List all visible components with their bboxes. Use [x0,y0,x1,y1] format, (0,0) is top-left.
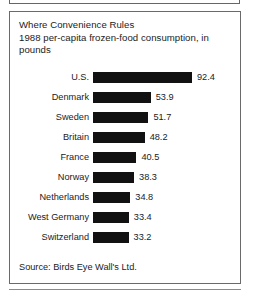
bar-row: Norway38.3 [19,168,232,188]
bar-value-label: 33.2 [134,232,152,243]
bar-category-label: West Germany [19,212,93,223]
bar-value-label: 40.5 [141,152,159,163]
chart-title: Where Convenience Rules 1988 per-capita … [19,19,232,57]
bar-track: 53.9 [93,92,232,104]
bar-track: 51.7 [93,112,232,124]
bar-row: Britain48.2 [19,128,232,148]
bar-track: 34.8 [93,192,232,204]
bar-row: France40.5 [19,148,232,168]
bar-track: 33.2 [93,232,232,244]
bar-value-label: 53.9 [156,92,174,103]
bar-fill [93,72,192,83]
bar-row: Denmark53.9 [19,88,232,108]
bar-value-label: 51.7 [153,112,171,123]
bar-value-label: 48.2 [150,132,168,143]
bar-track: 40.5 [93,152,232,164]
bar-category-label: U.S. [19,72,93,83]
bar-track: 33.4 [93,212,232,224]
bar-value-label: 33.4 [134,212,152,223]
bar-fill [93,112,148,123]
bar-category-label: France [19,152,93,163]
bar-fill [93,212,129,223]
bar-row: Switzerland33.2 [19,228,232,248]
bar-fill [93,172,134,183]
bar-track: 48.2 [93,132,232,144]
bar-category-label: Britain [19,132,93,143]
bar-row: Sweden51.7 [19,108,232,128]
bar-fill [93,152,136,163]
bar-fill [93,192,130,203]
bar-fill [93,232,129,243]
bar-category-label: Norway [19,172,93,183]
figure-inner: Where Convenience Rules 1988 per-capita … [10,12,240,283]
bar-value-label: 38.3 [139,172,157,183]
bar-category-label: Sweden [19,112,93,123]
bar-category-label: Netherlands [19,192,93,203]
bar-row: West Germany33.4 [19,208,232,228]
bar-value-label: 92.4 [197,72,215,83]
bar-category-label: Denmark [19,92,93,103]
bar-track: 92.4 [93,72,232,84]
bar-value-label: 34.8 [135,192,153,203]
source-note: Source: Birds Eye Wall's Ltd. [19,262,137,273]
bar-row: Netherlands34.8 [19,188,232,208]
chart-title-line-2: 1988 per-capita frozen-food consumption,… [19,32,232,45]
bar-row: U.S.92.4 [19,68,232,88]
clipped-panel-above [9,0,240,4]
horizontal-rule-below-figure [9,289,241,290]
bar-category-label: Switzerland [19,232,93,243]
bar-chart-plot-area: U.S.92.4Denmark53.9Sweden51.7Britain48.2… [19,68,232,248]
bar-fill [93,132,145,143]
bar-track: 38.3 [93,172,232,184]
chart-title-line-1: Where Convenience Rules [19,19,232,32]
chart-title-line-3: pounds [19,44,232,57]
chart-figure-panel: Where Convenience Rules 1988 per-capita … [9,11,241,284]
bar-fill [93,92,151,103]
